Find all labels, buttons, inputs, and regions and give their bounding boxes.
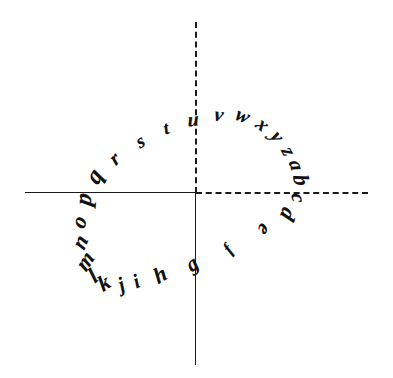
letter-s: s	[132, 130, 147, 151]
letter-t: t	[161, 118, 171, 137]
negative-x-axis	[25, 192, 196, 193]
letter-f: f	[220, 241, 236, 257]
letter-j: j	[115, 273, 127, 294]
letter-x: x	[252, 114, 274, 135]
letter-o: o	[67, 213, 90, 231]
letter-r: r	[105, 147, 123, 168]
letter-z: z	[278, 144, 300, 158]
letter-c: c	[288, 194, 309, 203]
letter-i: i	[130, 270, 142, 291]
letter-b: b	[289, 173, 314, 187]
letter-p: p	[71, 191, 96, 207]
figure-canvas: fghijklmnopqrstuvwxyzabcde	[0, 0, 393, 378]
letter-w: w	[232, 104, 253, 127]
letter-q: q	[81, 164, 107, 188]
letter-g: g	[182, 252, 202, 276]
letter-e: e	[255, 220, 276, 240]
positive-x-axis	[196, 192, 368, 194]
negative-y-axis	[195, 192, 196, 365]
letter-h: h	[150, 262, 170, 288]
letter-u: u	[187, 108, 199, 130]
letter-a: a	[286, 158, 309, 172]
letter-d: d	[276, 204, 300, 223]
letter-v: v	[213, 104, 226, 125]
letter-y: y	[267, 127, 290, 145]
